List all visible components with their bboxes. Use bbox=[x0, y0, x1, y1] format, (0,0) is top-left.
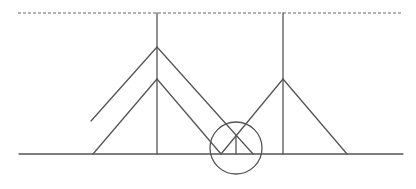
geometry-diagram bbox=[0, 0, 416, 189]
outer-left-arm bbox=[91, 47, 157, 121]
right-pole-left-arm bbox=[221, 79, 283, 154]
arms-group bbox=[91, 47, 347, 154]
inner-right-arm bbox=[157, 79, 221, 154]
poles-group bbox=[157, 13, 283, 154]
outer-right-arm bbox=[157, 47, 253, 154]
inner-left-arm bbox=[93, 79, 157, 154]
right-pole-right-arm bbox=[283, 79, 347, 154]
